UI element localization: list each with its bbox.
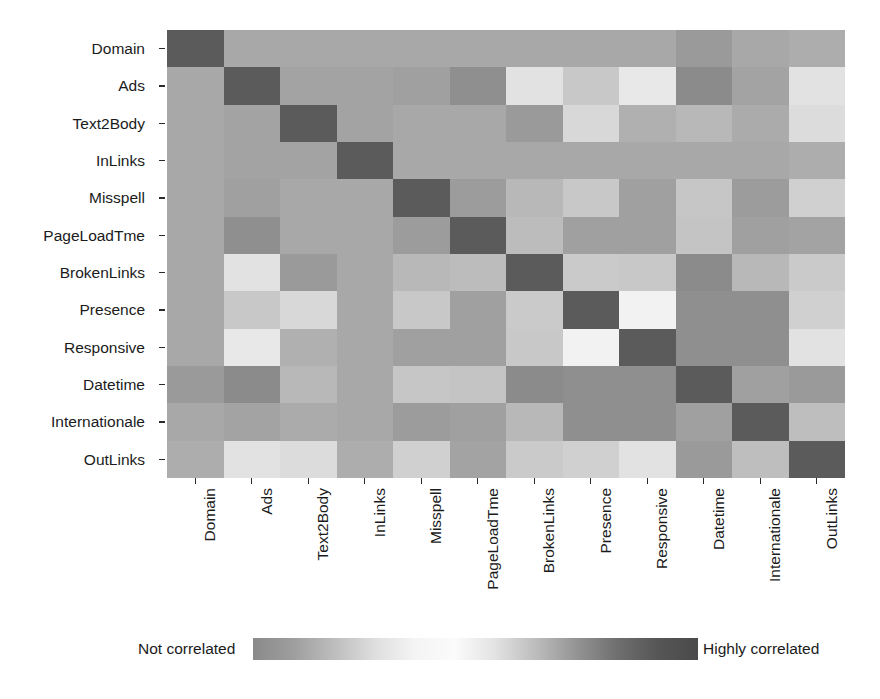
heatmap-cell [167, 30, 224, 67]
heatmap-cell [506, 291, 563, 328]
x-axis-tick [308, 478, 309, 484]
x-axis-label-text2body: Text2Body [314, 488, 332, 560]
x-axis-label-responsive: Responsive [653, 488, 671, 569]
colorbar-gradient [253, 638, 698, 660]
heatmap-cell [337, 30, 394, 67]
heatmap-cell [224, 329, 281, 366]
heatmap-cell [619, 403, 676, 440]
heatmap-cell [450, 179, 507, 216]
x-axis-label-datetime: Datetime [710, 488, 728, 550]
y-axis-tick [159, 48, 165, 49]
heatmap-cell [224, 105, 281, 142]
heatmap-cell [563, 67, 620, 104]
heatmap-cell [676, 329, 733, 366]
y-axis-tick [159, 160, 165, 161]
x-axis-tick [590, 478, 591, 484]
heatmap-cell [732, 329, 789, 366]
heatmap-cell [224, 67, 281, 104]
heatmap-cell [619, 366, 676, 403]
heatmap-cell [732, 403, 789, 440]
heatmap-cell [563, 217, 620, 254]
heatmap-cell [167, 441, 224, 478]
heatmap-cell [167, 67, 224, 104]
y-axis-label-domain: Domain [0, 30, 153, 67]
heatmap-cell [337, 403, 394, 440]
heatmap-cell [393, 142, 450, 179]
y-axis-label-inlinks: InLinks [0, 142, 153, 179]
heatmap-cell [337, 217, 394, 254]
heatmap-cell [393, 217, 450, 254]
heatmap-cell [393, 441, 450, 478]
heatmap-cell [393, 403, 450, 440]
heatmap-cell [789, 366, 846, 403]
heatmap-cell [506, 366, 563, 403]
heatmap-cell [506, 30, 563, 67]
heatmap-cell [393, 254, 450, 291]
heatmap-cell [619, 291, 676, 328]
heatmap-cell [224, 217, 281, 254]
heatmap-cell [167, 366, 224, 403]
heatmap-cell [619, 142, 676, 179]
heatmap-cell [563, 105, 620, 142]
heatmap-cell [732, 441, 789, 478]
x-axis-tick [421, 478, 422, 484]
y-axis-label-internationale: Internationale [0, 403, 153, 440]
heatmap-cell [563, 403, 620, 440]
heatmap-cell [619, 105, 676, 142]
x-axis-label-ads: Ads [258, 488, 276, 515]
heatmap-cell [789, 291, 846, 328]
heatmap-cell [563, 441, 620, 478]
heatmap-cell [789, 30, 846, 67]
heatmap-cell [224, 30, 281, 67]
y-axis-label-presence: Presence [0, 291, 153, 328]
x-axis-tick [647, 478, 648, 484]
y-axis-tick [159, 123, 165, 124]
heatmap-cell [506, 67, 563, 104]
x-axis-tick [703, 478, 704, 484]
heatmap-cell [506, 254, 563, 291]
heatmap-cell [676, 441, 733, 478]
x-axis-tick [364, 478, 365, 484]
heatmap-cell [789, 441, 846, 478]
heatmap-cell [280, 67, 337, 104]
heatmap-cell [563, 179, 620, 216]
heatmap-cell [732, 254, 789, 291]
x-axis-label-pageloadtme: PageLoadTme [484, 488, 502, 590]
x-axis-tick [477, 478, 478, 484]
heatmap-cell [337, 291, 394, 328]
x-axis-tick [251, 478, 252, 484]
heatmap-cell [280, 254, 337, 291]
y-axis-label-responsive: Responsive [0, 329, 153, 366]
y-axis-tick [159, 421, 165, 422]
x-axis-tick [534, 478, 535, 484]
heatmap-cell [450, 105, 507, 142]
heatmap-cell [167, 105, 224, 142]
heatmap-cell [167, 329, 224, 366]
heatmap-cell [450, 403, 507, 440]
y-axis-label-datetime: Datetime [0, 366, 153, 403]
heatmap-cell [167, 217, 224, 254]
heatmap-cell [676, 105, 733, 142]
heatmap-cell [506, 105, 563, 142]
heatmap-cell [563, 366, 620, 403]
y-axis-label-ads: Ads [0, 67, 153, 104]
y-axis-tick [159, 197, 165, 198]
heatmap-cell [563, 254, 620, 291]
correlation-heatmap-figure: DomainAdsText2BodyInLinksMisspellPageLoa… [0, 0, 880, 699]
x-axis-label-internationale: Internationale [766, 488, 784, 582]
heatmap-cell [789, 217, 846, 254]
heatmap-cell [676, 30, 733, 67]
heatmap-cell [563, 30, 620, 67]
heatmap-cell [789, 254, 846, 291]
y-axis-label-text2body: Text2Body [0, 105, 153, 142]
heatmap-cell [619, 217, 676, 254]
heatmap-cell [337, 142, 394, 179]
heatmap-cell [676, 403, 733, 440]
heatmap-cell [280, 291, 337, 328]
y-axis-tick [159, 347, 165, 348]
heatmap-cell [450, 142, 507, 179]
heatmap-cell [280, 441, 337, 478]
heatmap-cell [676, 142, 733, 179]
x-axis-label-domain: Domain [201, 488, 219, 541]
heatmap-cell [450, 366, 507, 403]
